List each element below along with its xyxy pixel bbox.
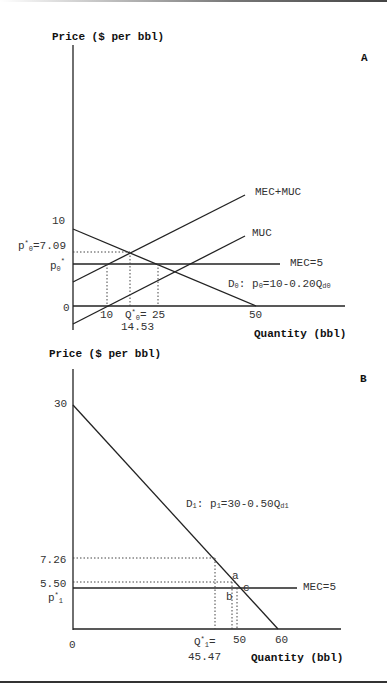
- panel-b-x-tick-60: 60: [275, 634, 288, 646]
- panel-b-point-b: b: [226, 591, 233, 603]
- panel-a-x-tick-50: 50: [249, 309, 262, 321]
- panel-b-point-a: a: [232, 570, 239, 582]
- panel-b-x-tick-0: 0: [69, 639, 76, 651]
- panel-a-mec-label: MEC=5: [290, 257, 323, 269]
- panel-b-y-tick-30: 30: [54, 398, 67, 410]
- panel-a-y-tick-p0star: p*0=7.09: [18, 239, 66, 253]
- panel-a-y-tick-p0: p0*: [50, 257, 65, 273]
- panel-a-x-tick-q0star-value: 14.53: [121, 321, 154, 333]
- panel-b-y-tick-p1star: p*1: [48, 591, 63, 605]
- panel-b-demand-label: D1: p1=30-0.50Qd1: [186, 498, 289, 510]
- panel-b-y-axis-label: Price ($ per bbl): [49, 348, 161, 360]
- panel-b: Price ($ per bbl) B 30 7.26 5.50 p*1 a b…: [40, 348, 367, 664]
- figure: Price ($ per bbl) A 10 p*0=7.09 p0* 0 10…: [0, 0, 387, 694]
- panel-a-x-tick-q0star: Q*0=: [125, 308, 147, 322]
- panel-a-x-tick-10: 10: [100, 309, 113, 321]
- panel-a-mec-muc-label: MEC+MUC: [255, 186, 302, 198]
- panel-a-mec-muc-line: [73, 195, 245, 282]
- panel-a-y-axis-label: Price ($ per bbl): [52, 31, 164, 43]
- panel-a-letter: A: [361, 52, 368, 64]
- panel-a-muc-label: MUC: [252, 227, 272, 239]
- panel-b-point-c: c: [243, 582, 250, 594]
- panel-a-y-tick-10: 10: [52, 215, 65, 227]
- panel-b-mec-label: MEC=5: [303, 581, 336, 593]
- panel-b-y-tick-726: 7.26: [40, 554, 66, 566]
- panel-a-demand-label: D0: p0=10-0.20Qd0: [228, 278, 331, 290]
- panel-b-letter: B: [360, 373, 367, 385]
- panel-a-x-axis-label: Quantity (bbl): [254, 328, 346, 340]
- panel-b-y-tick-550: 5.50: [40, 578, 66, 590]
- panel-a-x-tick-25: 25: [152, 309, 165, 321]
- panel-b-x-tick-50: 50: [233, 634, 246, 646]
- panel-b-demand-line: [73, 405, 278, 629]
- panel-a-y-tick-0: 0: [63, 302, 70, 314]
- bottom-border: [0, 681, 387, 683]
- panel-b-x-tick-q1star-value: 45.47: [188, 651, 221, 663]
- panel-a: Price ($ per bbl) A 10 p*0=7.09 p0* 0 10…: [18, 31, 368, 340]
- panel-b-x-axis-label: Quantity (bbl): [251, 652, 343, 664]
- panel-b-x-tick-q1star: Q*1=: [194, 635, 216, 649]
